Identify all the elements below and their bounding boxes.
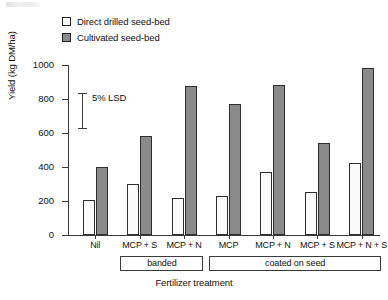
plot-area: Yield (kg DM/ha) 02004006008001000 NilMC… [0, 0, 388, 300]
figure-bar-chart-yield: Direct drilled seed-bed Cultivated seed-… [0, 0, 388, 300]
y-tick-600 [62, 133, 68, 134]
lsd-stem [82, 93, 83, 128]
bar [140, 136, 152, 235]
y-tick-label-200: 200 [22, 196, 54, 205]
bar-group [305, 65, 330, 235]
bar [185, 86, 197, 235]
y-axis-title: Yield (kg DM/ha) [6, 31, 17, 100]
x-axis-title: Fertilizer treatment [0, 277, 388, 288]
y-tick-200 [62, 201, 68, 202]
y-tick-0 [62, 235, 68, 236]
bar [96, 167, 108, 235]
bar [127, 184, 139, 235]
lsd-label: 5% LSD [92, 92, 126, 103]
y-tick-1000 [62, 65, 68, 66]
bar-series-container [69, 65, 380, 235]
bar [216, 196, 228, 235]
bar-group [349, 65, 374, 235]
x-tick-6 [362, 235, 363, 239]
x-tick-1 [140, 235, 141, 239]
bar [305, 192, 317, 235]
category-group-label: coated on seed [210, 257, 380, 270]
y-tick-label-0: 0 [22, 230, 54, 239]
bar [318, 143, 330, 235]
x-axis-label-6: MCP + N + S [330, 240, 388, 250]
x-tick-4 [273, 235, 274, 239]
y-tick-label-400: 400 [22, 162, 54, 171]
y-tick-800 [62, 99, 68, 100]
y-tick-label-1000: 1000 [22, 60, 54, 69]
x-axis-line [68, 235, 380, 236]
category-group-box: banded [120, 256, 203, 271]
x-tick-5 [317, 235, 318, 239]
category-group-label: banded [121, 257, 202, 270]
x-tick-2 [184, 235, 185, 239]
x-tick-3 [229, 235, 230, 239]
bar-group [260, 65, 285, 235]
bar [229, 104, 241, 235]
bar-group [127, 65, 152, 235]
y-tick-400 [62, 167, 68, 168]
y-tick-label-600: 600 [22, 128, 54, 137]
bar [260, 172, 272, 235]
bar-group [216, 65, 241, 235]
lsd-cap-bottom [78, 128, 87, 129]
bar [172, 198, 184, 235]
bar [349, 163, 361, 235]
bar [362, 68, 374, 235]
bar-group [83, 65, 108, 235]
bar [273, 85, 285, 235]
bar-group [172, 65, 197, 235]
category-group-box: coated on seed [209, 256, 381, 271]
y-tick-label-800: 800 [22, 94, 54, 103]
bar [83, 200, 95, 235]
x-tick-0 [95, 235, 96, 239]
